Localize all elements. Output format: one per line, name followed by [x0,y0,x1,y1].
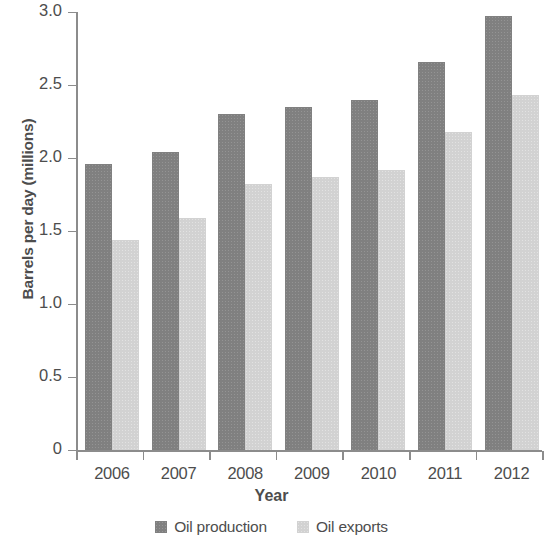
bar-oil-exports-2009 [312,177,339,450]
bar-oil-production-2007 [152,152,179,450]
legend-label: Oil production [174,518,267,536]
bar-oil-exports-2011 [445,132,472,450]
bar-oil-production-2012 [485,16,512,450]
x-axis-title: Year [0,487,543,505]
bar-oil-production-2008 [218,114,245,450]
x-axis-tick-label-2012: 2012 [472,464,548,483]
chart-legend: Oil productionOil exports [0,518,543,536]
bar-oil-exports-2007 [179,218,206,450]
bar-oil-exports-2006 [112,240,139,450]
x-axis-tick [143,451,145,460]
y-axis-tick-label: 0 [0,439,62,458]
y-axis-tick-label: 3.0 [0,1,62,20]
bar-oil-production-2010 [351,100,378,450]
y-axis-tick-label: 2.5 [0,74,62,93]
y-axis-tick-label: 1.0 [0,293,62,312]
legend-swatch-icon [297,521,309,533]
x-axis-tick [542,451,544,460]
legend-item-oil-exports[interactable]: Oil exports [297,518,388,536]
x-axis-tick [476,451,478,460]
legend-item-oil-production[interactable]: Oil production [155,518,267,536]
x-axis-tick [342,451,344,460]
y-axis-tick-label: 0.5 [0,366,62,385]
y-axis-title: Barrels per day (millions) [19,49,37,369]
bar-oil-production-2006 [85,164,112,450]
x-axis-tick [276,451,278,460]
x-axis-tick [409,451,411,460]
bar-oil-exports-2010 [378,170,405,450]
x-axis-tick [209,451,211,460]
legend-label: Oil exports [316,518,388,536]
bar-oil-production-2009 [285,107,312,450]
legend-swatch-icon [155,521,167,533]
bar-oil-exports-2012 [512,95,539,450]
y-axis-tick-label: 2.0 [0,147,62,166]
plot-area [76,12,540,450]
y-axis-tick-label: 1.5 [0,220,62,239]
x-axis-line [76,450,542,452]
bar-oil-production-2011 [418,62,445,450]
bar-oil-exports-2008 [245,184,272,450]
x-axis-tick [76,451,78,460]
